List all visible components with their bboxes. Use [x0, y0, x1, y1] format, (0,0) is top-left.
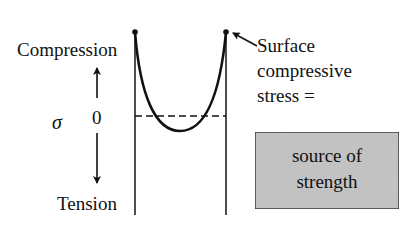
annotation-line-2: compressive [257, 60, 352, 81]
annotation-line-1: Surface [257, 35, 315, 56]
compression-label: Compression [17, 39, 118, 60]
box-line-2: strength [296, 171, 358, 192]
zero-label: 0 [92, 107, 102, 128]
sigma-symbol: σ [52, 111, 63, 133]
box-line-1: source of [292, 145, 363, 166]
left-surface-dot [132, 29, 138, 35]
annotation-arrow-icon [233, 33, 257, 46]
annotation-line-3: stress = [257, 85, 315, 106]
tension-label: Tension [57, 193, 117, 214]
right-surface-dot [223, 29, 229, 35]
stress-diagram: Compression Tension 0 σ Surface compress… [0, 0, 406, 228]
